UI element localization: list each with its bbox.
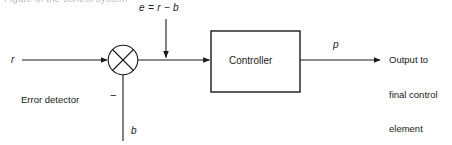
output-destination-label: Output to final control element: [389, 31, 438, 145]
error-detector-label: Error detector: [21, 94, 79, 105]
reference-input-label: r: [11, 54, 14, 65]
controller-block-label: Controller: [229, 55, 272, 66]
error-equation-label: e = r − b: [139, 2, 179, 13]
summing-junction: [108, 45, 138, 75]
feedback-signal-label: b: [131, 125, 137, 136]
output-destination-line-2: final control: [389, 89, 438, 101]
output-destination-line-1: Output to: [389, 54, 438, 66]
output-destination-line-3: element: [389, 123, 438, 135]
block-diagram-figure: Figure of the control system: [0, 0, 452, 145]
negative-sign-label: −: [110, 90, 116, 101]
diagram-canvas: [0, 0, 452, 145]
controller-output-label: p: [333, 39, 339, 50]
